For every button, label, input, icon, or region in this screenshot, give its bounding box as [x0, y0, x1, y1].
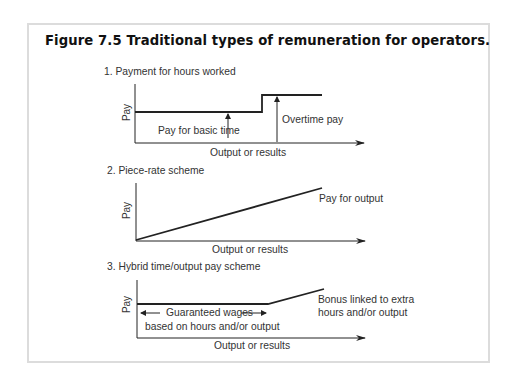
panel-3-bonus-label-line1: Bonus linked to extra	[318, 294, 414, 305]
panel-3-y-axis-label: Pay	[121, 296, 132, 313]
panel-2-chart	[136, 183, 365, 241]
panel-1-basic-time-label: Pay for basic time	[158, 125, 240, 136]
panel-2-pay-line	[136, 188, 322, 240]
panel-2-subtitle: 2. Piece-rate scheme	[107, 165, 204, 176]
panel-1-pay-line	[135, 95, 322, 112]
panel-3-bonus-label-line2: hours and/or output	[318, 307, 407, 318]
panel-3-guaranteed-wages-label: Guaranteed wages	[166, 307, 253, 318]
panel-1-overtime-label: Overtime pay	[282, 114, 343, 125]
panel-3-x-axis-label: Output or results	[214, 340, 290, 351]
panel-3-subtitle: 3. Hybrid time/output pay scheme	[107, 261, 260, 272]
panel-1-subtitle: 1. Payment for hours worked	[104, 66, 236, 77]
panel-2-x-axis-label: Output or results	[212, 244, 288, 255]
panel-2-pay-for-output-label: Pay for output	[319, 193, 383, 204]
panel-1-y-axis-label: Pay	[121, 104, 132, 121]
panel-1-x-axis-label: Output or results	[210, 147, 286, 158]
panel-2-y-axis-label: Pay	[121, 202, 132, 219]
panel-3-pay-line	[137, 289, 324, 304]
panel-3-guaranteed-basis-label: based on hours and/or output	[145, 321, 280, 332]
